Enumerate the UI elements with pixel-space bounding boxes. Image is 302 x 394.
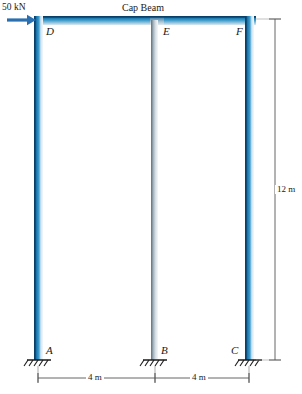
- cap-beam-title: Cap Beam: [122, 3, 164, 13]
- dimension-label-right-span: 4 m: [190, 373, 208, 382]
- column-left-AD: [34, 16, 43, 360]
- joint-label-b: B: [161, 345, 168, 356]
- structural-frame-diagram: Cap Beam 50 kN D E F A B C 4 m 4 m 12 m: [0, 0, 302, 394]
- fixed-support-icon-b: [140, 360, 167, 366]
- load-label: 50 kN: [2, 3, 26, 13]
- column-middle-BE: [151, 20, 158, 360]
- joint-label-a: A: [46, 345, 53, 356]
- column-right-CF: [245, 16, 254, 360]
- joint-label-c: C: [231, 345, 238, 356]
- dimension-extension-lines: [38, 366, 249, 382]
- fixed-support-icon-c: [235, 360, 262, 366]
- frame-drawing: [0, 0, 302, 394]
- dimension-label-left-span: 4 m: [86, 373, 104, 382]
- cap-beam-member: [34, 16, 256, 25]
- fixed-support-icon-a: [24, 360, 51, 366]
- arrow-right-icon: [7, 15, 36, 25]
- dimension-label-height: 12 m: [275, 185, 297, 194]
- joint-label-f: F: [236, 26, 243, 37]
- joint-label-d: D: [46, 26, 54, 37]
- joint-label-e: E: [163, 26, 170, 37]
